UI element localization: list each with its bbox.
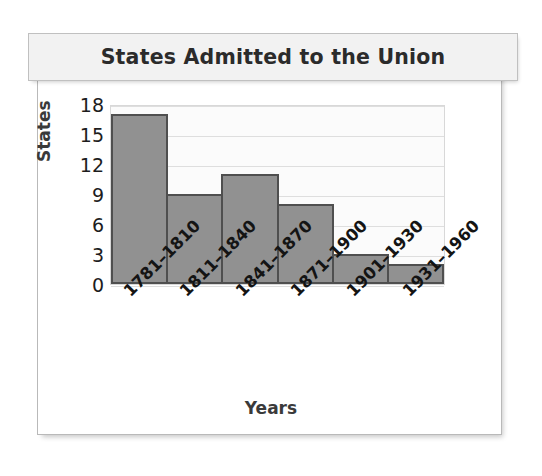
x-axis-title: Years: [0, 398, 542, 418]
chart-title: States Admitted to the Union: [101, 45, 446, 69]
y-tick-label: 12: [80, 156, 104, 175]
chart-title-box: States Admitted to the Union: [28, 33, 518, 81]
y-tick-label: 18: [80, 96, 104, 115]
y-tick-label: 6: [92, 216, 104, 235]
y-axis-title: States: [34, 100, 54, 162]
y-tick-label: 15: [80, 126, 104, 145]
y-tick-label: 9: [92, 186, 104, 205]
y-tick-label: 3: [92, 246, 104, 265]
y-tick-label: 0: [92, 276, 104, 295]
y-axis-tick-labels: 0369121518: [62, 105, 104, 285]
gridline: [111, 286, 444, 287]
chart-figure: States Admitted to the Union States 0369…: [0, 0, 542, 476]
